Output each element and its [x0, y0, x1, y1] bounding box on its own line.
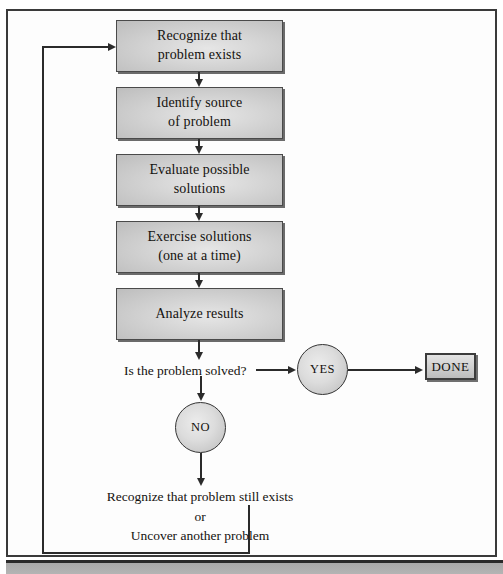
page-bottom-shadow-band [6, 560, 503, 574]
loopback-text-line2: or [194, 509, 205, 524]
done-terminal-label: DONE [431, 359, 469, 375]
yes-to-done-arrowhead [415, 366, 423, 374]
feedback-loop-top-line [42, 46, 112, 48]
feedback-loop-vertical-line [42, 46, 44, 554]
decision-to-yes-arrowhead [288, 366, 296, 374]
connector-arrow-decision [195, 352, 203, 360]
connector-arrow-exercise [195, 213, 203, 221]
yes-to-done-line [348, 369, 417, 371]
loopback-text-block: Recognize that problem still exists or U… [95, 487, 305, 546]
loopback-text-line3: Uncover another problem [131, 528, 270, 543]
loopback-text-line1: Recognize that problem still exists [107, 489, 294, 504]
no-circle-node[interactable]: NO [175, 402, 226, 453]
feedback-loop-arrowhead [108, 43, 116, 51]
connector-arrow-identify [195, 79, 203, 87]
feedback-loop-bottom-line [42, 552, 250, 554]
process-box-identify-label: Identify source of problem [157, 94, 243, 132]
connector-arrow-analyze [195, 280, 203, 288]
process-box-exercise-label: Exercise solutions (one at a time) [147, 228, 251, 266]
process-box-analyze[interactable]: Analyze results [116, 288, 283, 340]
decision-to-yes-line [256, 369, 290, 371]
decision-label: Is the problem solved? [124, 361, 247, 381]
process-box-identify[interactable]: Identify source of problem [116, 87, 283, 139]
decision-to-no-line [200, 376, 202, 394]
process-box-recognize[interactable]: Recognize that problem exists [116, 20, 283, 72]
process-box-evaluate[interactable]: Evaluate possible solutions [116, 154, 283, 206]
no-to-loopback-arrowhead [197, 478, 205, 486]
process-box-exercise[interactable]: Exercise solutions (one at a time) [116, 221, 283, 273]
connector-arrow-evaluate [195, 146, 203, 154]
yes-circle-label: YES [310, 362, 335, 377]
flowchart-page: Recognize that problem exists Identify s… [0, 0, 503, 574]
process-box-evaluate-label: Evaluate possible solutions [149, 161, 249, 199]
no-circle-label: NO [191, 420, 210, 435]
done-terminal-box[interactable]: DONE [425, 353, 476, 380]
decision-to-no-arrowhead [197, 393, 205, 401]
yes-circle-node[interactable]: YES [297, 344, 348, 395]
process-box-analyze-label: Analyze results [155, 305, 243, 324]
process-box-recognize-label: Recognize that problem exists [157, 27, 242, 65]
